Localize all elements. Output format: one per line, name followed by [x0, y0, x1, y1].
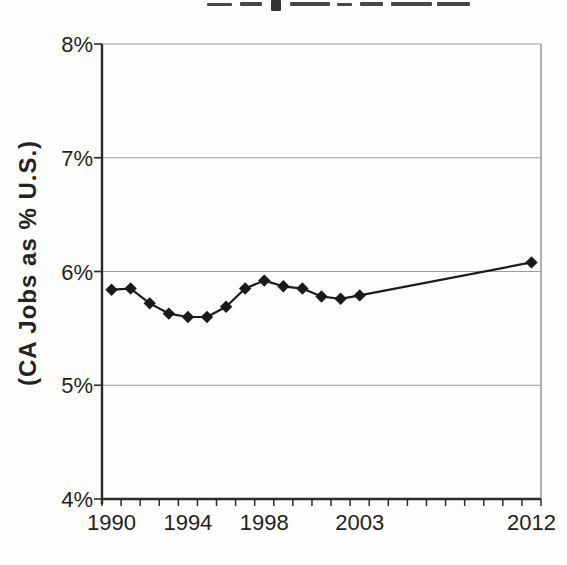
data-point	[105, 284, 117, 296]
data-point	[258, 274, 270, 286]
cropped-title-fragment	[290, 2, 330, 6]
data-point	[353, 289, 365, 301]
data-point	[201, 311, 213, 323]
x-tick-label: 1990	[87, 510, 136, 535]
cropped-title-fragment	[207, 3, 232, 6]
cropped-title-fragment	[437, 2, 470, 6]
data-point	[163, 307, 175, 319]
data-point	[525, 256, 537, 268]
cropped-title-fragment	[360, 2, 383, 6]
data-point	[277, 280, 289, 292]
scanned-chart-figure: (CA Jobs as % U.S.) 8%7%6%5%4%1990199419…	[0, 0, 567, 565]
y-tick-label: 6%	[61, 260, 93, 285]
cropped-title-fragment	[337, 3, 352, 6]
x-tick-label: 2012	[507, 510, 556, 535]
y-axis-title: (CA Jobs as % U.S.)	[14, 140, 41, 386]
plot-area: 8%7%6%5%4%19901994199820032012	[61, 32, 556, 535]
data-point	[334, 293, 346, 305]
cropped-title-fragment	[240, 2, 262, 6]
cropped-title-fragment	[271, 0, 281, 11]
y-tick-label: 8%	[61, 32, 93, 57]
x-tick-label: 1998	[240, 510, 289, 535]
y-tick-label: 5%	[61, 373, 93, 398]
data-line	[112, 262, 532, 317]
x-tick-label: 1994	[163, 510, 212, 535]
x-tick-label: 2003	[335, 510, 384, 535]
y-tick-label: 7%	[61, 146, 93, 171]
data-point	[182, 311, 194, 323]
data-point	[315, 290, 327, 302]
chart-svg: (CA Jobs as % U.S.) 8%7%6%5%4%1990199419…	[0, 0, 567, 565]
data-point	[296, 282, 308, 294]
y-tick-label: 4%	[61, 487, 93, 512]
cropped-title-fragment	[391, 2, 432, 6]
